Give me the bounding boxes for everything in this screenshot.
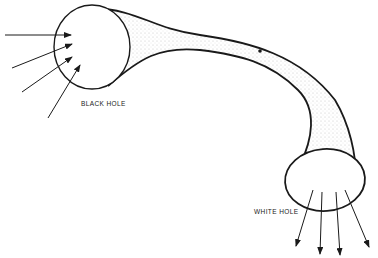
white-hole-label: WHITE HOLE (254, 208, 298, 215)
black-hole-label: BLACK HOLE (81, 100, 126, 107)
wormhole-diagram (0, 0, 378, 258)
wormhole-dot-marker (258, 49, 262, 53)
